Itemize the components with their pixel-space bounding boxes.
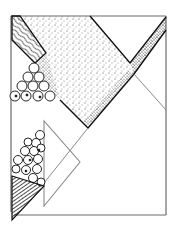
diagonal-gray-line-left (44, 128, 88, 183)
gray-triangle (44, 121, 80, 207)
diagonal-gray-line-right (134, 74, 166, 110)
sketch-canvas (0, 0, 174, 225)
sketch-svg (0, 0, 174, 225)
